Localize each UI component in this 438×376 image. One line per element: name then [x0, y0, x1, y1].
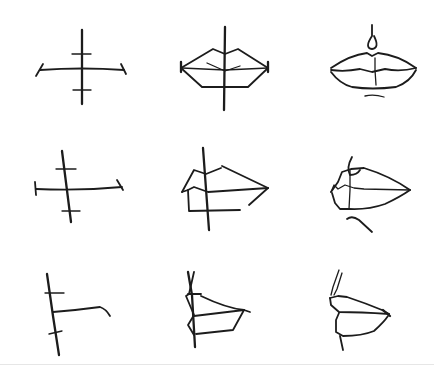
lip-sketch-profile-block-in [186, 272, 250, 347]
lip-sketch-front-refined [331, 25, 416, 97]
sketch-row-profile [45, 270, 390, 355]
lip-sketch-front-block-in [181, 27, 268, 110]
pencil-stroke [332, 190, 410, 209]
lip-sketch-front-guidelines [36, 30, 126, 104]
lip-sketch-three-quarter-refined [331, 157, 410, 232]
pencil-stroke [222, 166, 268, 188]
sketch-grid [35, 25, 416, 355]
pencil-stroke [331, 185, 410, 192]
pencil-stroke [53, 307, 110, 316]
pencil-stroke [331, 70, 416, 89]
pencil-stroke [188, 190, 240, 211]
pencil-stroke [340, 336, 343, 350]
bottom-divider [0, 364, 434, 365]
pencil-stroke [182, 187, 268, 192]
pencil-stroke [36, 187, 122, 190]
lip-sketch-profile-guidelines [45, 274, 110, 355]
sketch-row-front [36, 25, 416, 110]
pencil-stroke [331, 168, 410, 192]
pencil-stroke [331, 68, 416, 72]
pencil-stroke [182, 168, 221, 192]
pencil-stroke [336, 313, 388, 336]
pencil-stroke [47, 274, 59, 355]
pencil-stroke [365, 95, 384, 97]
pencil-stroke [331, 270, 339, 295]
pencil-stroke [117, 180, 123, 190]
pencil-stroke [249, 188, 268, 205]
pencil-stroke [331, 53, 416, 68]
pencil-stroke [334, 273, 342, 295]
pencil-stroke [347, 217, 372, 232]
pencil-stroke [35, 182, 36, 195]
sketch-row-three-quarter [35, 148, 410, 232]
lip-sketch-figure [0, 0, 438, 376]
pencil-stroke [349, 170, 350, 209]
pencil-stroke [201, 296, 244, 310]
lip-sketch-three-quarter-block-in [182, 148, 268, 230]
lip-sketch-three-quarter-guidelines [35, 151, 123, 222]
lip-sketch-profile-refined [330, 270, 390, 350]
pencil-stroke [368, 25, 377, 49]
pencil-stroke [224, 27, 225, 110]
pencil-stroke [203, 148, 209, 230]
